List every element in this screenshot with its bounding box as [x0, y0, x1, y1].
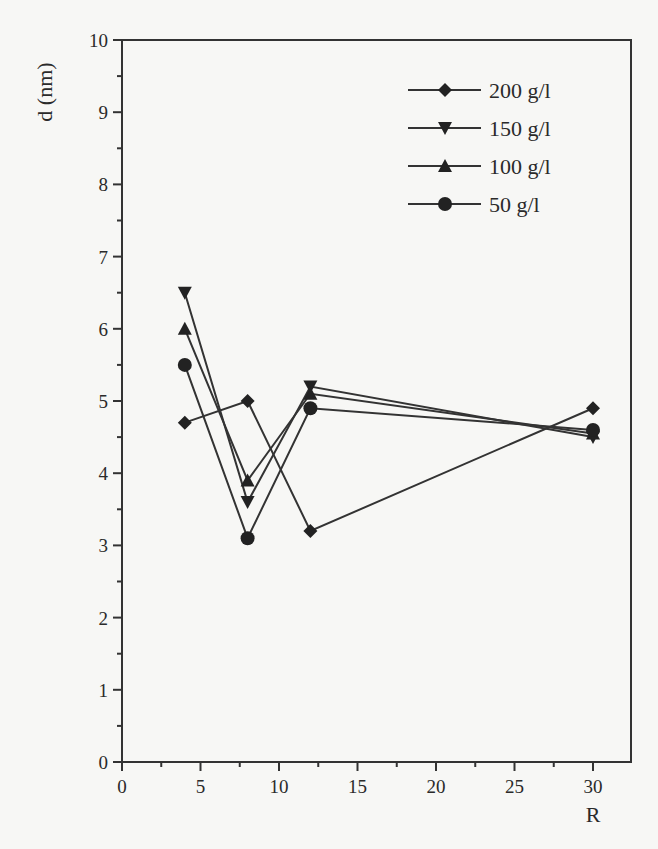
circle-marker-icon	[303, 401, 317, 415]
x-tick-label: 10	[270, 776, 289, 797]
triangle-down-marker-icon	[241, 496, 255, 509]
legend-label: 150 g/l	[489, 116, 551, 141]
y-tick-label: 2	[99, 608, 109, 629]
x-tick-label: 30	[584, 776, 603, 797]
series-layer	[178, 287, 600, 545]
x-tick-label: 5	[196, 776, 206, 797]
legend-label: 200 g/l	[489, 78, 551, 103]
y-tick-label: 8	[99, 174, 109, 195]
y-tick-label: 0	[99, 752, 109, 773]
triangle-up-marker-icon	[303, 387, 317, 400]
legend: 200 g/l150 g/l100 g/l50 g/l	[408, 78, 551, 217]
x-tick-label: 20	[427, 776, 446, 797]
y-axis-title: d (nm)	[32, 62, 57, 121]
circle-marker-icon	[241, 531, 255, 545]
x-tick-label: 15	[348, 776, 367, 797]
legend-item: 200 g/l	[408, 78, 551, 103]
x-tick-label: 0	[117, 776, 127, 797]
y-tick-label: 6	[99, 319, 109, 340]
x-tick-label: 25	[505, 776, 524, 797]
x-axis-title: R	[586, 802, 601, 827]
series-line	[185, 401, 593, 531]
circle-marker-icon	[438, 197, 452, 211]
series-50-g-l	[178, 358, 600, 545]
legend-label: 100 g/l	[489, 154, 551, 179]
x-axis: 051015202530	[117, 762, 602, 797]
y-axis: 012345678910	[89, 30, 122, 773]
diamond-marker-icon	[303, 524, 317, 538]
triangle-down-marker-icon	[178, 287, 192, 300]
diamond-marker-icon	[178, 416, 192, 430]
legend-item: 100 g/l	[408, 154, 551, 179]
legend-item: 150 g/l	[408, 116, 551, 141]
y-tick-label: 7	[99, 247, 109, 268]
y-tick-label: 3	[99, 535, 109, 556]
triangle-up-marker-icon	[178, 322, 192, 335]
y-tick-label: 9	[99, 102, 109, 123]
y-tick-label: 4	[99, 463, 109, 484]
y-tick-label: 1	[99, 680, 109, 701]
diamond-marker-icon	[241, 394, 255, 408]
series-150-g-l	[178, 287, 600, 509]
triangle-up-marker-icon	[241, 473, 255, 486]
circle-marker-icon	[586, 423, 600, 437]
diamond-marker-icon	[586, 401, 600, 415]
series-line	[185, 365, 593, 538]
diamond-marker-icon	[438, 83, 452, 97]
y-tick-label: 10	[89, 30, 108, 51]
y-tick-label: 5	[99, 391, 109, 412]
legend-item: 50 g/l	[408, 192, 540, 217]
legend-label: 50 g/l	[489, 192, 540, 217]
chart: 012345678910 051015202530 200 g/l150 g/l…	[0, 0, 658, 849]
circle-marker-icon	[178, 358, 192, 372]
